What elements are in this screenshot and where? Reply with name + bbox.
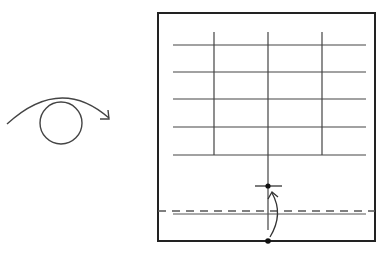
origami-diagram — [0, 0, 378, 260]
crease-grid — [173, 32, 366, 230]
bottom-point — [265, 238, 271, 244]
turn-over-icon — [7, 98, 109, 144]
reference-point — [255, 183, 282, 188]
